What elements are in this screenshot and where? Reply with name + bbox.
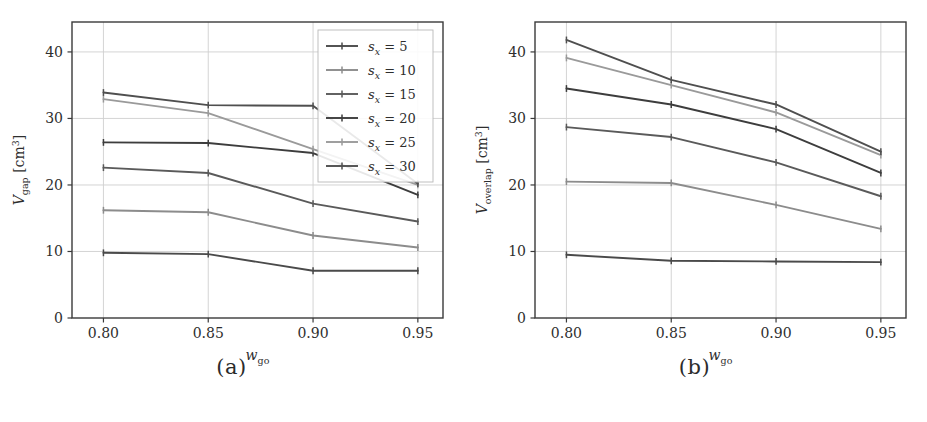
y-axis-tick-label: 10	[45, 243, 63, 259]
y-axis-tick-label: 0	[54, 310, 63, 326]
y-axis-tick-label: 30	[45, 110, 63, 126]
y-axis-tick-label: 40	[45, 44, 63, 60]
data-line-series-3	[566, 127, 880, 196]
x-axis-tick-label: 0.85	[193, 325, 224, 341]
x-axis-tick-label: 0.90	[297, 325, 328, 341]
data-line-series-1	[103, 253, 417, 271]
data-line-series-1	[566, 255, 880, 262]
y-axis-tick-label: 20	[45, 177, 63, 193]
x-axis-tick-label: 0.85	[656, 325, 687, 341]
y-axis-tick-label: 0	[517, 310, 526, 326]
panel-b: 0102030400.800.850.900.95wgoVoverlap [cm…	[463, 0, 926, 422]
data-line-series-2	[566, 182, 880, 229]
x-axis-tick-label: 0.90	[760, 325, 791, 341]
y-axis-title: Vgap [cm3]	[10, 135, 30, 206]
x-axis-tick-label: 0.95	[865, 325, 896, 341]
panel-a-caption: (a)	[0, 355, 463, 379]
data-line-series-2	[103, 210, 417, 247]
data-line-series-5	[566, 58, 880, 155]
y-axis-title-text: Voverlap [cm3]	[473, 126, 493, 215]
y-axis-tick-label: 10	[508, 243, 526, 259]
plot-frame	[535, 22, 906, 318]
x-axis-tick-label: 0.80	[551, 325, 582, 341]
panel-a: 0102030400.800.850.900.95wgoVgap [cm3]sx…	[0, 0, 463, 422]
y-axis-title: Voverlap [cm3]	[473, 126, 493, 215]
figure-container: 0102030400.800.850.900.95wgoVgap [cm3]sx…	[0, 0, 927, 422]
y-axis-tick-label: 30	[508, 110, 526, 126]
x-axis-tick-label: 0.95	[402, 325, 433, 341]
panel-b-caption: (b)	[463, 355, 926, 379]
y-axis-tick-label: 20	[508, 177, 526, 193]
y-axis-tick-label: 40	[508, 44, 526, 60]
y-axis-title-text: Vgap [cm3]	[10, 135, 30, 206]
legend: sx = 5sx = 10sx = 15sx = 20sx = 25sx = 3…	[318, 30, 433, 182]
x-axis-tick-label: 0.80	[88, 325, 119, 341]
